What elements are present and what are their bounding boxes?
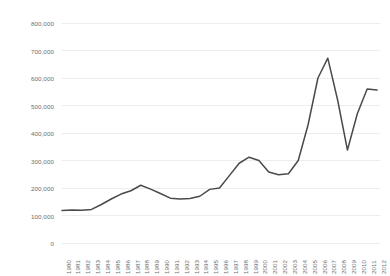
y-axis-tick-label: 200,000 — [0, 185, 54, 192]
y-axis-tick-label: 300,000 — [0, 157, 54, 164]
x-axis-tick-label: 2004 — [301, 260, 308, 274]
x-axis-tick-label: 1989 — [153, 260, 160, 274]
x-axis-tick-label: 1996 — [222, 260, 229, 274]
x-axis-tick-label: 2012 — [380, 260, 387, 274]
x-axis-tick-label: 1980 — [65, 260, 72, 274]
x-axis-tick-label: 1986 — [124, 260, 131, 274]
x-axis-tick-label: 1994 — [202, 260, 209, 274]
gridlines — [62, 23, 380, 243]
x-axis-tick-label: 1998 — [242, 260, 249, 274]
x-axis-tick-label: 1988 — [143, 260, 150, 274]
x-axis-tick-label: 1990 — [163, 260, 170, 274]
y-axis-tick-label: 100,000 — [0, 212, 54, 219]
x-axis-tick-label: 2003 — [291, 260, 298, 274]
x-axis-tick-label: 2009 — [350, 260, 357, 274]
y-axis-tick-label: 500,000 — [0, 102, 54, 109]
chart-plot-area — [0, 0, 390, 276]
x-axis-tick-label: 1981 — [74, 260, 81, 274]
x-axis-tick-label: 1985 — [114, 260, 121, 274]
x-axis-tick-label: 2010 — [360, 260, 367, 274]
x-axis-tick-label: 1982 — [84, 260, 91, 274]
line-chart: 0100,000200,000300,000400,000500,000600,… — [0, 0, 390, 276]
x-axis-tick-label: 1997 — [232, 260, 239, 274]
x-axis-tick-label: 1984 — [104, 260, 111, 274]
x-axis-tick-label: 2002 — [281, 260, 288, 274]
x-axis-tick-label: 2008 — [340, 260, 347, 274]
y-axis-tick-label: 400,000 — [0, 130, 54, 137]
x-axis-tick-label: 2005 — [311, 260, 318, 274]
y-axis-tick-label: 600,000 — [0, 75, 54, 82]
x-axis-tick-label: 2000 — [261, 260, 268, 274]
x-axis-tick-label: 2001 — [271, 260, 278, 274]
x-axis-tick-label: 1995 — [212, 260, 219, 274]
x-axis-tick-label: 1991 — [173, 260, 180, 274]
x-axis-tick-label: 1993 — [193, 260, 200, 274]
x-axis-tick-label: 2007 — [330, 260, 337, 274]
x-axis-tick-label: 2006 — [321, 260, 328, 274]
y-axis-tick-label: 800,000 — [0, 20, 54, 27]
y-axis-tick-label: 0 — [0, 240, 54, 247]
x-axis-tick-label: 1992 — [183, 260, 190, 274]
x-axis-tick-label: 1999 — [252, 260, 259, 274]
x-axis-tick-label: 1983 — [94, 260, 101, 274]
y-axis-tick-label: 700,000 — [0, 47, 54, 54]
x-axis-tick-label: 2011 — [370, 260, 377, 274]
x-axis-tick-label: 1987 — [134, 260, 141, 274]
